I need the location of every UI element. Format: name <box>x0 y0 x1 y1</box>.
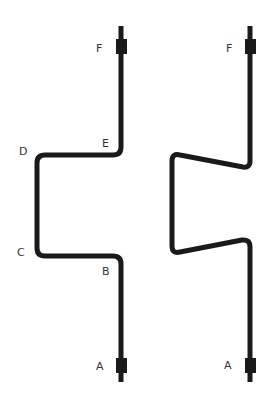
label-F-right: F <box>226 42 232 55</box>
label-C: C <box>17 246 25 259</box>
right-bottom-fitting <box>245 358 256 373</box>
label-E: E <box>102 137 109 150</box>
left-bottom-fitting <box>116 358 127 373</box>
pipe-diagram: F E D C B A F A <box>0 0 271 412</box>
label-D: D <box>19 145 27 158</box>
label-A-right: A <box>224 359 232 372</box>
right-pipe: F A <box>172 26 256 382</box>
right-top-fitting <box>245 39 256 54</box>
label-B: B <box>102 265 110 278</box>
right-pipe-path <box>172 26 250 382</box>
left-pipe: F E D C B A <box>17 26 127 382</box>
label-F-left: F <box>96 42 102 55</box>
left-pipe-path <box>37 26 121 382</box>
label-A-left: A <box>96 360 104 373</box>
left-top-fitting <box>116 39 127 54</box>
